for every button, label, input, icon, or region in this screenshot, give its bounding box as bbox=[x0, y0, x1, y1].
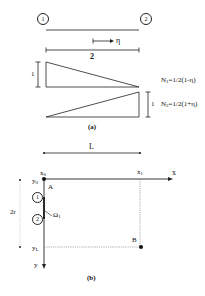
height-dim-top-marker bbox=[19, 179, 21, 181]
x-axis bbox=[44, 177, 173, 181]
n1-formula: N1=1/2(1-η) bbox=[161, 77, 196, 85]
y-axis bbox=[42, 179, 46, 269]
eta-label: η bbox=[116, 37, 120, 45]
x-axis-label: x bbox=[172, 169, 176, 177]
point-b-marker bbox=[139, 245, 143, 249]
n1-height-dimension bbox=[36, 62, 41, 87]
x1-label: x1 bbox=[137, 169, 143, 177]
boundary-node-2-label: 2 bbox=[32, 214, 43, 225]
caption-b: (b) bbox=[87, 275, 96, 282]
node-1-label: 1 bbox=[37, 13, 49, 25]
omega-leader-line bbox=[45, 211, 52, 216]
y0-label: y0 bbox=[32, 178, 38, 186]
shape-function-n1-triangle bbox=[46, 62, 139, 87]
shape-function-n2-triangle bbox=[46, 92, 139, 117]
domain-length-label: L bbox=[89, 143, 94, 151]
point-b-label: B bbox=[132, 237, 137, 244]
node-marker-1 bbox=[43, 197, 45, 199]
height-dim-bottom-marker bbox=[19, 246, 21, 248]
node-2-label: 2 bbox=[140, 13, 152, 25]
height-label: 2r bbox=[10, 209, 16, 216]
domain-length-dimension bbox=[43, 152, 141, 154]
boundary-omega-label: Ω1 bbox=[53, 212, 61, 220]
boundary-node-1-label: 1 bbox=[32, 192, 43, 203]
y-axis-label: y bbox=[34, 262, 38, 269]
element-length-label: 2 bbox=[90, 53, 94, 61]
n2-height-label: 1 bbox=[151, 101, 155, 108]
node-marker-2 bbox=[43, 217, 45, 219]
point-a-label: A bbox=[48, 184, 53, 191]
n2-height-dimension bbox=[146, 92, 151, 117]
n2-formula: N2=1/2(1+η) bbox=[161, 101, 197, 109]
caption-a: (a) bbox=[88, 124, 96, 131]
diagram-canvas bbox=[0, 0, 205, 296]
yl-label: yL bbox=[32, 245, 39, 253]
eta-arrow-icon bbox=[93, 39, 114, 44]
x0-label: x0 bbox=[40, 170, 46, 178]
n1-height-label: 1 bbox=[31, 71, 35, 78]
